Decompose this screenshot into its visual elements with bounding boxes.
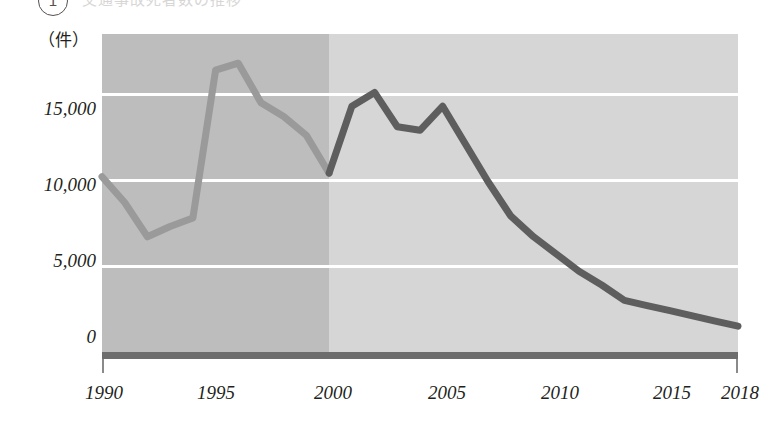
- x-axis-tick-2010: 2010: [541, 382, 579, 404]
- line-chart: 15,000 10,000 5,000 0 1990 1995 2000 200…: [0, 0, 778, 426]
- x-axis-tick-1995: 1995: [197, 382, 235, 404]
- x-axis-tick-2005: 2005: [428, 382, 466, 404]
- x-axis-tick-1990: 1990: [85, 382, 123, 404]
- x-axis-tick-2015: 2015: [653, 382, 691, 404]
- x-axis-tick-2018: 2018: [721, 382, 759, 404]
- x-axis-tick-2000: 2000: [314, 382, 352, 404]
- x-axis-labels: 1990 1995 2000 2005 2010 2015 2018: [0, 0, 778, 426]
